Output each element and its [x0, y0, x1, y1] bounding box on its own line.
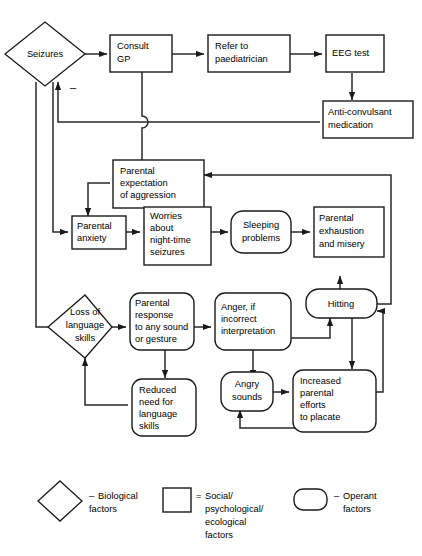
node-reduced-need[interactable]: Reduced need for language skills	[132, 379, 196, 436]
node-loss-label-line1: Loss of	[70, 307, 100, 317]
legend-social-label-line4: factors	[205, 530, 233, 540]
edge-expectation-to-anxiety	[88, 183, 110, 216]
node-hitting[interactable]: Hitting	[306, 289, 377, 318]
node-anger-label-line2: incorrect	[221, 314, 257, 324]
legend: – Biological factors = Social/ psycholog…	[38, 481, 377, 540]
node-anxiety-label-line2: anxiety	[77, 233, 107, 243]
node-expectation-label-line3: of aggression	[120, 190, 176, 200]
legend-biological-connector: –	[89, 491, 95, 501]
node-worries-label-line3: night-time	[150, 235, 191, 245]
edge-reduced-need-to-loss	[85, 358, 128, 405]
edge-efforts-to-angry-sounds	[240, 410, 300, 428]
legend-rounded-icon	[294, 489, 327, 510]
negative-sign-annotation: –	[70, 81, 77, 93]
node-response-label-line2: response	[135, 310, 173, 320]
legend-operant-label-line2: factors	[343, 504, 371, 514]
edge-consultgp-to-expectation	[142, 72, 148, 160]
legend-social-label-line2: psychological/	[205, 504, 264, 514]
node-worries-label-line2: about	[150, 223, 174, 233]
node-sleeping-label-line1: Sleeping	[243, 220, 279, 230]
legend-item-operant: – Operant factors	[294, 489, 377, 514]
node-exhaustion-label-line1: Parental	[319, 213, 354, 223]
node-efforts-label-line3: efforts	[300, 400, 326, 410]
node-consult-gp-label-line1: Consult	[117, 41, 149, 51]
node-eeg-test[interactable]: EEG test	[326, 35, 384, 72]
node-expectation-label-line2: expectation	[120, 178, 168, 188]
node-parental-expectation[interactable]: Parental expectation of aggression	[113, 160, 204, 208]
legend-item-social: = Social/ psychological/ ecological fact…	[163, 488, 264, 540]
node-reduced-label-line3: language	[139, 409, 177, 419]
node-angry-label-line2: sounds	[232, 392, 262, 402]
node-reduced-label-line2: need for	[139, 397, 173, 407]
node-loss-label-line2: language	[66, 320, 104, 330]
edge-seizures-to-anxiety	[53, 82, 68, 232]
node-parental-anxiety[interactable]: Parental anxiety	[72, 216, 126, 249]
legend-biological-label-line2: factors	[89, 504, 117, 514]
legend-social-connector: =	[196, 491, 201, 501]
node-response-label-line4: or gesture	[135, 334, 177, 344]
node-worries-label-line1: Worries	[150, 211, 182, 221]
node-anticonvulsant-label-line2: medication	[328, 120, 373, 130]
node-seizures-label: Seizures	[27, 49, 64, 59]
legend-operant-connector: –	[334, 491, 340, 501]
legend-biological-label-line1: Biological	[98, 491, 138, 501]
node-hitting-label: Hitting	[328, 299, 354, 309]
node-efforts-label-line4: to placate	[300, 412, 340, 422]
edge-seizures-to-loss-language	[36, 82, 58, 327]
node-loss-language-skills[interactable]: Loss of language skills	[48, 295, 112, 358]
edge-anger-to-hitting	[291, 318, 330, 338]
node-anger[interactable]: Anger, if incorrect interpretation	[215, 293, 291, 350]
legend-operant-label-line1: Operant	[343, 491, 377, 501]
node-anticonvulsant-medication[interactable]: Anti-convulsant medication	[323, 101, 413, 138]
node-exhaustion-label-line2: exhaustion	[319, 226, 364, 236]
node-anger-label-line3: interpretation	[221, 326, 275, 336]
node-efforts-label-line2: parental	[300, 388, 334, 398]
node-efforts-label-line1: Increased	[300, 376, 341, 386]
node-reduced-label-line4: skills	[139, 421, 159, 431]
node-anxiety-label-line1: Parental	[77, 221, 112, 231]
node-sleeping-problems[interactable]: Sleeping problems	[231, 211, 291, 253]
legend-item-biological: – Biological factors	[38, 481, 138, 521]
node-parental-exhaustion[interactable]: Parental exhaustion and misery	[314, 207, 384, 257]
node-refer-paediatrician[interactable]: Refer to paediatrician	[208, 35, 290, 72]
node-angry-label-line1: Angry	[235, 379, 260, 389]
flowchart-diagram: Seizures Consult GP Refer to paediatrici…	[0, 0, 422, 556]
edge-medication-to-seizures	[58, 82, 320, 122]
legend-social-label-line3: ecological	[205, 517, 246, 527]
node-angry-sounds[interactable]: Angry sounds	[221, 372, 273, 411]
node-response-label-line1: Parental	[135, 298, 170, 308]
rounded-shape	[231, 211, 291, 253]
node-exhaustion-label-line3: and misery	[319, 239, 365, 249]
legend-diamond-icon	[38, 481, 82, 521]
legend-social-label-line1: Social/	[205, 491, 233, 501]
node-worries[interactable]: Worries about night-time seizures	[144, 207, 211, 265]
node-response-label-line3: to any sound	[135, 322, 188, 332]
node-anticonvulsant-label-line1: Anti-convulsant	[328, 107, 392, 117]
node-consult-gp-label-line2: GP	[117, 54, 130, 64]
node-consult-gp[interactable]: Consult GP	[110, 35, 172, 72]
legend-rect-icon	[163, 488, 191, 512]
node-refer-label-line2: paediatrician	[215, 54, 268, 64]
edge-efforts-to-hitting	[376, 311, 383, 392]
node-loss-label-line3: skills	[75, 333, 95, 343]
node-refer-label-line1: Refer to	[215, 41, 248, 51]
node-expectation-label-line1: Parental	[120, 166, 155, 176]
node-anger-label-line1: Anger, if	[221, 302, 256, 312]
node-sleeping-label-line2: problems	[242, 233, 281, 243]
node-worries-label-line4: seizures	[150, 247, 185, 257]
node-parental-response[interactable]: Parental response to any sound or gestur…	[130, 293, 194, 350]
node-seizures[interactable]: Seizures	[5, 22, 85, 86]
node-reduced-label-line1: Reduced	[139, 385, 176, 395]
node-increased-efforts[interactable]: Increased parental efforts to placate	[293, 370, 376, 432]
node-eeg-test-label: EEG test	[332, 48, 370, 58]
